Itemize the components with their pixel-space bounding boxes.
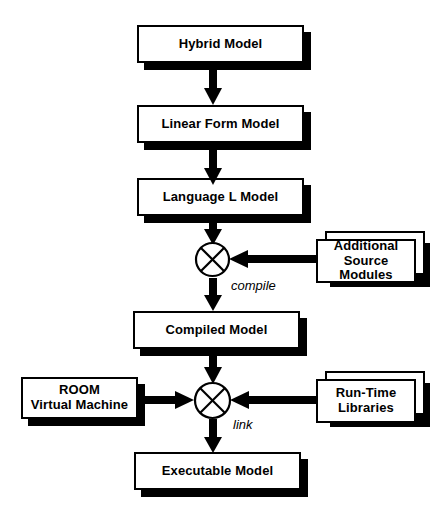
node-additional-source-modules[interactable]: Additional Source Modules bbox=[316, 239, 416, 283]
node-compiled-model[interactable]: Compiled Model bbox=[133, 311, 300, 349]
diagram-canvas: Hybrid Model Linear Form Model Language … bbox=[0, 0, 437, 514]
node-linear-form-model-label: Linear Form Model bbox=[162, 117, 280, 132]
arrow-compile-junction-to-compiled bbox=[204, 278, 222, 311]
node-run-time-libraries-line1: Run-Time bbox=[336, 386, 397, 401]
arrow-room-to-link-junction bbox=[138, 391, 194, 409]
node-additional-source-modules-line1: Additional bbox=[334, 239, 399, 254]
node-hybrid-model[interactable]: Hybrid Model bbox=[137, 25, 304, 63]
node-additional-source-modules-line2: Source Modules bbox=[318, 254, 414, 283]
arrow-compiled-to-link-junction bbox=[204, 348, 222, 384]
node-linear-form-model[interactable]: Linear Form Model bbox=[137, 105, 304, 143]
node-room-virtual-machine[interactable]: ROOM Virtual Machine bbox=[21, 377, 138, 419]
node-room-virtual-machine-line1: ROOM bbox=[59, 383, 100, 398]
node-executable-model[interactable]: Executable Model bbox=[134, 452, 301, 490]
node-language-l-model-label: Language L Model bbox=[163, 190, 278, 205]
arrow-link-junction-to-executable bbox=[204, 419, 222, 453]
link-label: link bbox=[233, 417, 253, 432]
arrow-runtime-to-link-junction bbox=[230, 391, 317, 409]
compile-junction[interactable] bbox=[194, 241, 231, 278]
node-room-virtual-machine-line2: Virtual Machine bbox=[31, 398, 128, 413]
link-junction[interactable] bbox=[193, 381, 232, 420]
node-run-time-libraries[interactable]: Run-Time Libraries bbox=[316, 379, 416, 423]
arrow-linear-to-language bbox=[204, 142, 222, 185]
node-compiled-model-label: Compiled Model bbox=[166, 323, 268, 338]
node-run-time-libraries-line2: Libraries bbox=[338, 401, 394, 416]
compile-label: compile bbox=[231, 278, 276, 293]
node-executable-model-label: Executable Model bbox=[162, 464, 273, 479]
arrow-hybrid-to-linear bbox=[204, 62, 222, 105]
node-hybrid-model-label: Hybrid Model bbox=[179, 37, 263, 52]
arrow-additional-to-compile-junction bbox=[229, 250, 317, 268]
